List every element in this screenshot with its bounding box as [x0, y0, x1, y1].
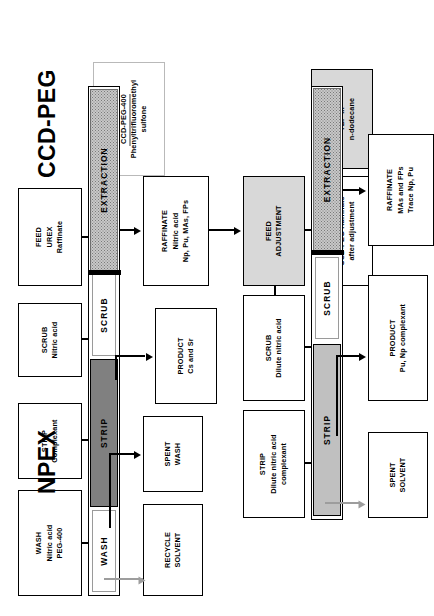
- npex-segment-scrub: SCRUB: [315, 257, 339, 339]
- arrowhead-product: [146, 353, 153, 361]
- arrowhead-raffinate: [134, 227, 141, 235]
- ccdpeg-input-feed: FEED UREX Raffinate: [18, 188, 82, 286]
- npex-output-raffinate: RAFFINATE MAs and FPs Trace Np, Pu: [368, 134, 434, 246]
- ccdpeg-input-wash: WASH Nitric acid PEG-400: [18, 490, 82, 596]
- connector-npex-spent-solvent: [325, 503, 360, 505]
- connector-npex-product-v: [336, 356, 360, 358]
- npex-segment-extraction: EXTRACTION: [313, 88, 341, 251]
- ccdpeg-output-product: PRODUCT Cs and Sr: [155, 308, 217, 404]
- arrowhead-npex-product: [359, 353, 366, 361]
- ccdpeg-stage-divider: [89, 270, 121, 275]
- ccdpeg-input-scrub: SCRUB Nitric acid: [18, 303, 82, 377]
- connector-recycle-solvent: [104, 579, 143, 581]
- section-title-ccd-peg: CCD-PEG: [34, 69, 61, 178]
- arrowhead-feed-adjustment: [234, 227, 241, 235]
- arrowhead-npex-spent-solvent: [359, 501, 366, 509]
- npex-input-strip: STRIP Dilute nitric acid complexant: [243, 410, 305, 518]
- ccdpeg-output-spent-wash: SPENT WASH: [143, 416, 203, 492]
- ccdpeg-contactor-column: WASH STRIP SCRUB EXTRACTION: [88, 86, 120, 596]
- npex-input-scrub: SCRUB Dilute nitric acid: [243, 295, 305, 401]
- arrowhead-recycle-solvent: [139, 577, 146, 585]
- connector-spent-wash-h: [109, 454, 111, 528]
- arrowhead-npex-raffinate: [359, 187, 366, 195]
- feed-adjustment-box: FEED ADJUSTMENT: [243, 176, 305, 286]
- connector-to-feed-adjustment: [209, 230, 235, 232]
- ccdpeg-output-recycle-solvent: RECYCLE SOLVENT: [143, 504, 203, 596]
- arrowhead-spent-wash: [134, 451, 141, 459]
- ccdpeg-output-raffinate: RAFFINATE Nitric acid Np, Pu, MAs, FPs: [143, 176, 209, 286]
- ccdpeg-segment-scrub: SCRUB: [92, 274, 116, 356]
- connector-product-v: [115, 356, 145, 358]
- npex-stage-divider: [312, 250, 344, 255]
- ccdpeg-segment-extraction: EXTRACTION: [90, 89, 118, 271]
- connector-spent-wash-v: [109, 454, 135, 456]
- npex-output-spent-solvent: SPENT SOLVENT: [368, 432, 428, 518]
- npex-contactor-column: STRIP SCRUB EXTRACTION: [311, 86, 343, 520]
- connector-npex-product-h: [336, 356, 338, 436]
- connector-npex-raffinate-v: [343, 190, 360, 192]
- section-title-npex: NPEX: [34, 430, 61, 494]
- connector-raffinate-v: [120, 230, 135, 232]
- connector-solvent-in: [129, 94, 131, 146]
- connector-product-h: [115, 356, 117, 380]
- ccdpeg-segment-strip: STRIP: [90, 359, 118, 507]
- npex-output-product: PRODUCT Pu, Np complexant: [368, 275, 428, 401]
